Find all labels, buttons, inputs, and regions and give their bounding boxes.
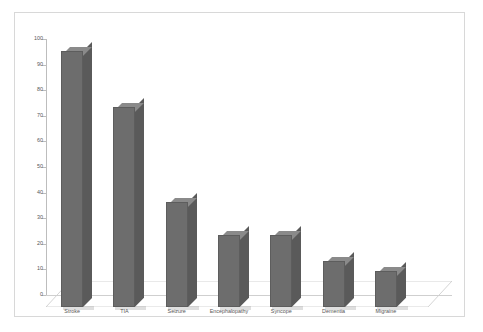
- bar-front-face: [166, 202, 188, 307]
- plot-area: 0102030405060708090100 StrokeTIASeizureE…: [15, 13, 466, 318]
- bar[interactable]: [113, 95, 144, 307]
- y-axis-tick-label: 100: [21, 36, 43, 41]
- y-axis-tick-label: 60: [21, 138, 43, 143]
- chart-root: 0102030405060708090100 StrokeTIASeizureE…: [0, 0, 483, 332]
- bar-side-face: [135, 98, 144, 307]
- bar[interactable]: [375, 259, 406, 307]
- bar-front-face: [323, 261, 345, 307]
- y-axis-tick-label: 10: [21, 266, 43, 271]
- x-axis-tick-label: Dementia: [307, 309, 359, 315]
- bar-top-face: [166, 193, 197, 202]
- x-axis-tick-labels: StrokeTIASeizureEncephalopathySyncopeDem…: [46, 309, 452, 323]
- x-axis-tick-label: Seizure: [151, 309, 203, 315]
- y-axis-tick-label: 30: [21, 215, 43, 220]
- bar[interactable]: [61, 39, 92, 307]
- bar-front-face: [270, 235, 292, 307]
- bar-series: [46, 39, 452, 307]
- x-axis-tick-label: Stroke: [46, 309, 98, 315]
- bar[interactable]: [323, 249, 354, 307]
- x-axis-tick-label: Migraine: [360, 309, 412, 315]
- bar-side-face: [188, 193, 197, 307]
- bar-top-face: [113, 98, 144, 107]
- bar[interactable]: [270, 223, 301, 307]
- bar[interactable]: [218, 223, 249, 307]
- bar-top-face: [375, 262, 406, 271]
- bar-front-face: [113, 107, 135, 307]
- y-axis-tick-label: 40: [21, 190, 43, 195]
- bar-top-face: [218, 226, 249, 235]
- y-axis-tick-label: 80: [21, 87, 43, 92]
- bar[interactable]: [166, 190, 197, 307]
- chart-frame: 0102030405060708090100 StrokeTIASeizureE…: [14, 12, 465, 317]
- y-axis-tick-label: 0: [21, 292, 43, 297]
- x-axis-tick-label: TIA: [98, 309, 150, 315]
- x-axis-tick-label: Syncope: [255, 309, 307, 315]
- bar-side-face: [83, 42, 92, 307]
- bar-top-face: [323, 252, 354, 261]
- bar-front-face: [375, 271, 397, 307]
- y-axis-tick-label: 70: [21, 113, 43, 118]
- y-axis-tick-label: 90: [21, 62, 43, 67]
- y-axis-tick-label: 50: [21, 164, 43, 169]
- bar-front-face: [61, 51, 83, 307]
- x-axis-tick-label: Encephalopathy: [203, 309, 255, 315]
- bar-top-face: [61, 42, 92, 51]
- y-axis-tick-label: 20: [21, 241, 43, 246]
- bar-front-face: [218, 235, 240, 307]
- bar-top-face: [270, 226, 301, 235]
